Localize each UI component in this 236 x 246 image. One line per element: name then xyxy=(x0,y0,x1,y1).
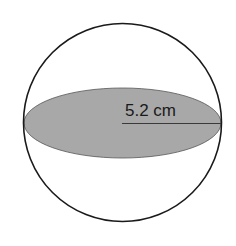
radius-label: 5.2 cm xyxy=(125,101,176,120)
sphere-diagram: 5.2 cm xyxy=(0,0,236,246)
